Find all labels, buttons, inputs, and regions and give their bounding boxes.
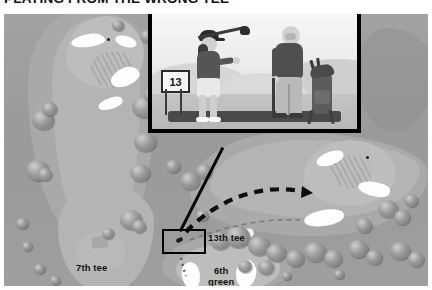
golfer-b-leaning-club: [272, 78, 275, 118]
golfer-b-arm: [272, 48, 279, 78]
golf-bag: [304, 64, 344, 122]
map-label-6th-green-line2: green: [208, 277, 234, 287]
page-title: PLAYING FROM THE WRONG TEE: [4, 0, 424, 7]
golfer-with-club: [190, 30, 242, 122]
golfer-a-shoe: [208, 117, 221, 122]
golfer-a-torso: [197, 51, 220, 80]
golfer-b-face: [285, 33, 296, 40]
golfer-b-leg-split: [288, 84, 290, 115]
photo-inset: 13: [149, 14, 360, 132]
golf-club-head: [240, 26, 250, 35]
tee-marker-icon: [176, 237, 184, 243]
course-map: 7th tee 13th tee 6th green 13: [4, 14, 428, 286]
golf-bag-pocket: [314, 90, 330, 104]
arc-primary-path: [186, 189, 304, 232]
golf-bag-stand-leg: [307, 110, 313, 124]
golfer-b-shoe: [273, 113, 287, 118]
golfer-a-leg: [210, 95, 217, 119]
golfer-b-shoe: [289, 113, 303, 118]
golf-bag-stand-leg: [328, 110, 334, 124]
tee-sign-post-right: [180, 89, 182, 115]
arc-secondary-path: [190, 220, 300, 240]
map-label-13th-tee: 13th tee: [208, 233, 245, 244]
golfer-b-torso: [275, 43, 303, 79]
tee-sign-post-left: [165, 89, 167, 115]
map-label-6th-green-line1: 6th: [208, 266, 234, 277]
golf-course-diagram: PLAYING FROM THE WRONG TEE: [0, 0, 432, 290]
arc-arrowhead: [301, 186, 313, 198]
golfer-a-hand: [233, 57, 240, 64]
map-label-7th-tee: 7th tee: [76, 263, 107, 274]
golfer-a-leg: [199, 95, 206, 119]
map-label-6th-green: 6th green: [208, 266, 234, 286]
callout-box-13th-tee[interactable]: [162, 229, 206, 254]
arc-runout-path: [180, 252, 186, 276]
